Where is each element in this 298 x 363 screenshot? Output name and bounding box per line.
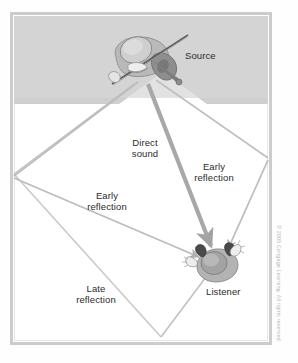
figure-container: Source Direct sound Early reflection Ear… bbox=[0, 0, 298, 363]
acoustics-diagram bbox=[0, 0, 298, 363]
copyright-notice: © 2005 Cengage Learning. All rights rese… bbox=[276, 225, 282, 342]
